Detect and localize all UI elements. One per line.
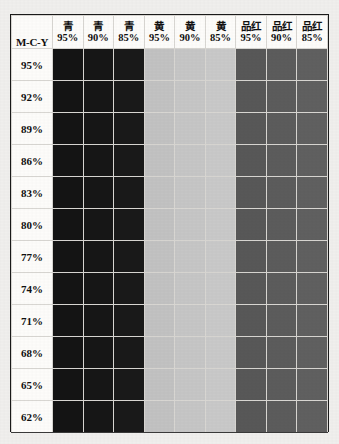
corner-header-mcy: M-C-Y	[12, 16, 53, 49]
color-swatch-r0-c7	[266, 49, 297, 81]
color-swatch-r11-c0	[53, 401, 84, 433]
column-ink-percent: 85%	[114, 32, 144, 44]
column-ink-name: 黄	[175, 20, 205, 32]
color-swatch-r6-c3	[144, 241, 175, 273]
row-label-5: 80%	[12, 209, 53, 241]
color-swatch-r3-c5	[205, 145, 236, 177]
column-ink-name: 黄	[145, 20, 175, 32]
column-ink-percent: 95%	[145, 32, 175, 44]
row-label-0: 95%	[12, 49, 53, 81]
column-header-4: 黄90%	[175, 16, 206, 49]
column-header-5: 黄85%	[205, 16, 236, 49]
header-row: M-C-Y 青95%青90%青85%黄95%黄90%黄85%品红95%品红90%…	[12, 16, 328, 49]
column-ink-percent: 95%	[236, 32, 266, 44]
color-swatch-r5-c6	[236, 209, 267, 241]
color-swatch-r4-c7	[266, 177, 297, 209]
color-swatch-r4-c5	[205, 177, 236, 209]
color-swatch-r2-c7	[266, 113, 297, 145]
color-swatch-r6-c1	[83, 241, 114, 273]
color-swatch-r7-c3	[144, 273, 175, 305]
row-label-10: 65%	[12, 369, 53, 401]
color-swatch-r10-c3	[144, 369, 175, 401]
color-swatch-r1-c1	[83, 81, 114, 113]
row-label-9: 68%	[12, 337, 53, 369]
row-label-4: 83%	[12, 177, 53, 209]
color-swatch-r9-c6	[236, 337, 267, 369]
table-row: 86%	[12, 145, 328, 177]
color-swatch-r4-c1	[83, 177, 114, 209]
color-swatch-r4-c4	[175, 177, 206, 209]
color-swatch-r10-c2	[114, 369, 145, 401]
table-row: 83%	[12, 177, 328, 209]
color-swatch-r7-c4	[175, 273, 206, 305]
color-swatch-r9-c7	[266, 337, 297, 369]
column-ink-name: 品红	[236, 20, 266, 32]
color-swatch-r10-c4	[175, 369, 206, 401]
column-header-2: 青85%	[114, 16, 145, 49]
color-swatch-r2-c5	[205, 113, 236, 145]
color-swatch-r8-c1	[83, 305, 114, 337]
color-swatch-r8-c5	[205, 305, 236, 337]
column-ink-percent: 85%	[297, 32, 327, 44]
table-row: 89%	[12, 113, 328, 145]
color-swatch-r11-c1	[83, 401, 114, 433]
color-swatch-r7-c7	[266, 273, 297, 305]
color-swatch-r3-c3	[144, 145, 175, 177]
column-ink-percent: 85%	[206, 32, 236, 44]
color-swatch-r11-c2	[114, 401, 145, 433]
color-swatch-r0-c3	[144, 49, 175, 81]
column-ink-percent: 90%	[267, 32, 297, 44]
color-swatch-r9-c2	[114, 337, 145, 369]
density-table: M-C-Y 青95%青90%青85%黄95%黄90%黄85%品红95%品红90%…	[11, 15, 328, 433]
color-swatch-r11-c5	[205, 401, 236, 433]
color-swatch-r7-c8	[297, 273, 328, 305]
color-swatch-r11-c3	[144, 401, 175, 433]
table-row: 62%	[12, 401, 328, 433]
table-row: 77%	[12, 241, 328, 273]
column-ink-percent: 90%	[175, 32, 205, 44]
column-ink-name: 品红	[297, 20, 327, 32]
row-label-11: 62%	[12, 401, 53, 433]
color-swatch-r5-c7	[266, 209, 297, 241]
color-swatch-r4-c8	[297, 177, 328, 209]
row-label-8: 71%	[12, 305, 53, 337]
color-swatch-r4-c6	[236, 177, 267, 209]
color-swatch-r5-c2	[114, 209, 145, 241]
table-body: 95%92%89%86%83%80%77%74%71%68%65%62%	[12, 49, 328, 433]
table-row: 65%	[12, 369, 328, 401]
color-swatch-r6-c5	[205, 241, 236, 273]
table-row: 92%	[12, 81, 328, 113]
color-swatch-r2-c8	[297, 113, 328, 145]
color-swatch-r10-c5	[205, 369, 236, 401]
color-swatch-r2-c3	[144, 113, 175, 145]
row-label-2: 89%	[12, 113, 53, 145]
color-swatch-r7-c6	[236, 273, 267, 305]
color-swatch-r1-c8	[297, 81, 328, 113]
color-swatch-r9-c8	[297, 337, 328, 369]
row-label-6: 77%	[12, 241, 53, 273]
color-swatch-r10-c8	[297, 369, 328, 401]
color-swatch-r8-c6	[236, 305, 267, 337]
row-label-1: 92%	[12, 81, 53, 113]
color-swatch-r1-c6	[236, 81, 267, 113]
color-swatch-r8-c8	[297, 305, 328, 337]
color-swatch-r8-c2	[114, 305, 145, 337]
column-ink-name: 黄	[206, 20, 236, 32]
color-swatch-r7-c2	[114, 273, 145, 305]
color-swatch-r1-c0	[53, 81, 84, 113]
color-swatch-r11-c6	[236, 401, 267, 433]
column-ink-name: 品红	[267, 20, 297, 32]
color-swatch-r9-c5	[205, 337, 236, 369]
color-swatch-r5-c8	[297, 209, 328, 241]
color-swatch-r0-c8	[297, 49, 328, 81]
color-swatch-r6-c2	[114, 241, 145, 273]
column-header-1: 青90%	[83, 16, 114, 49]
color-swatch-r8-c0	[53, 305, 84, 337]
table-header: M-C-Y 青95%青90%青85%黄95%黄90%黄85%品红95%品红90%…	[12, 16, 328, 49]
color-swatch-r0-c0	[53, 49, 84, 81]
color-swatch-r7-c0	[53, 273, 84, 305]
color-swatch-r3-c4	[175, 145, 206, 177]
color-swatch-r4-c3	[144, 177, 175, 209]
color-swatch-r3-c2	[114, 145, 145, 177]
color-swatch-r8-c4	[175, 305, 206, 337]
